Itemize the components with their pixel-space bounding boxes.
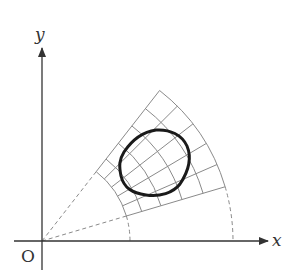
polar-grid-diagram: x y O bbox=[0, 0, 297, 279]
origin-label: O bbox=[21, 246, 35, 266]
polar-grid bbox=[96, 90, 225, 216]
axes bbox=[14, 48, 268, 270]
x-axis-label: x bbox=[272, 230, 282, 250]
grid-radial-line bbox=[104, 106, 177, 179]
dashed-arc-to-axis bbox=[126, 216, 130, 241]
dashed-ray bbox=[42, 216, 126, 241]
dashed-ray bbox=[42, 172, 96, 241]
grid-arc bbox=[160, 90, 226, 186]
y-axis-label: y bbox=[34, 24, 45, 44]
grid-radial-line bbox=[126, 187, 225, 216]
dashed-guides bbox=[42, 172, 233, 241]
dashed-arc-to-axis bbox=[225, 187, 233, 241]
